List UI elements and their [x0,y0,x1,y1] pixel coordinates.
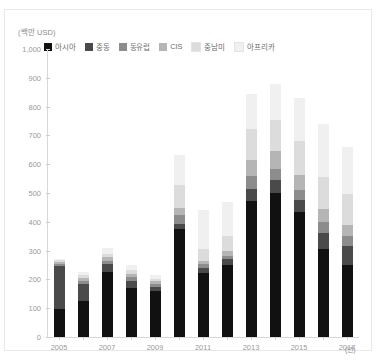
x-axis-tick-label: 2007 [87,343,127,352]
bar-segment [318,209,329,222]
bar-2012[interactable] [222,202,233,337]
bar-2015[interactable] [294,98,305,337]
bar-2006[interactable] [78,272,89,337]
bar-segment [318,249,329,337]
bar-segment [54,309,65,337]
y-axis-tick [46,337,50,338]
x-axis-tick [155,337,156,340]
y-axis-tick-label: 200 [1,275,41,284]
bar-segment [342,147,353,195]
bar-segment [318,177,329,209]
bar-segment [270,120,281,152]
bar-segment [246,176,257,189]
bar-2017[interactable] [342,147,353,337]
x-axis-tick-label: 2015 [279,343,319,352]
y-axis-tick [46,193,50,194]
bar-segment [342,236,353,246]
x-axis-tick [131,337,132,340]
bar-segment [318,222,329,234]
x-axis-tick [59,337,60,340]
bar-2011[interactable] [198,210,209,337]
y-axis-tick [46,279,50,280]
bar-segment [246,189,257,201]
bar-segment [198,249,209,261]
y-axis-tick [46,78,50,79]
bar-segment [270,169,281,181]
bar-2005[interactable] [54,259,65,337]
bar-segment [342,194,353,224]
y-axis-tick-label: 800 [1,103,41,112]
y-axis-tick-label: 0 [1,333,41,342]
y-axis-tick-label: 400 [1,218,41,227]
x-axis-tick [323,337,324,340]
plot-area: 1,00090080070060050040030020010002005200… [47,49,359,337]
bar-segment [270,193,281,337]
x-axis-tick [227,337,228,340]
bar-2013[interactable] [246,94,257,337]
bar-segment [174,208,185,215]
x-axis-tick [347,337,348,340]
bar-segment [222,236,233,252]
y-axis-tick-label: 500 [1,189,41,198]
bar-2008[interactable] [126,265,137,337]
bar-segment [174,215,185,224]
bar-segment [222,202,233,236]
bar-segment [246,201,257,337]
bar-segment [342,246,353,265]
x-axis-tick [299,337,300,340]
bar-segment [294,175,305,189]
bar-segment [294,190,305,200]
bar-segment [78,301,89,337]
y-axis-tick-label: 100 [1,304,41,313]
x-axis-tick-label: 2013 [231,343,271,352]
bar-2009[interactable] [150,275,161,337]
bar-segment [294,141,305,175]
bar-segment [246,94,257,129]
bar-segment [246,160,257,176]
bar-segment [174,229,185,337]
y-axis-tick-label: 700 [1,131,41,140]
bar-2016[interactable] [318,124,329,337]
y-axis-tick [46,135,50,136]
y-axis-tick [46,308,50,309]
bar-segment [102,264,113,272]
bar-segment [342,225,353,237]
bar-segment [294,98,305,141]
x-axis-tick [107,337,108,340]
bar-segment [270,151,281,168]
y-axis-tick [46,164,50,165]
x-axis-tick [251,337,252,340]
bar-segment [270,84,281,120]
bar-segment [294,200,305,212]
y-axis-unit-label: (백만 USD) [18,26,56,37]
bar-segment [78,284,89,301]
x-axis-tick [83,337,84,340]
x-axis-tick [275,337,276,340]
bar-segment [150,291,161,337]
bar-segment [294,212,305,337]
y-axis-tick [46,49,50,50]
bar-segment [270,180,281,193]
x-axis-tick-label: 2005 [39,343,79,352]
x-axis-tick-label: 2011 [183,343,223,352]
x-axis-tick-label: 2017 [327,343,367,352]
bar-segment [342,265,353,337]
bar-segment [126,288,137,337]
bar-segment [246,129,257,161]
bar-segment [198,210,209,249]
y-axis-tick [46,251,50,252]
bar-segment [174,185,185,208]
bar-segment [222,265,233,337]
bar-segment [102,272,113,337]
bar-segment [318,233,329,249]
x-axis-tick [203,337,204,340]
bar-segment [54,266,65,309]
bar-segment [126,281,137,288]
y-axis-tick [46,107,50,108]
bar-segment [174,155,185,185]
y-axis-tick-label: 1,000 [1,45,41,54]
y-axis-tick-label: 900 [1,74,41,83]
bar-2007[interactable] [102,248,113,337]
bar-2010[interactable] [174,155,185,337]
bar-2014[interactable] [270,84,281,337]
